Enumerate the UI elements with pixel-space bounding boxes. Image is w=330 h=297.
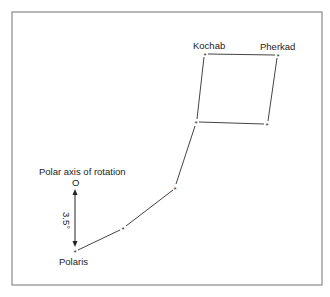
star-icon: * (265, 121, 268, 130)
polar-axis-marker: O (72, 177, 79, 188)
arrow-down-icon (73, 241, 78, 247)
star-pherkad-icon: * (276, 52, 279, 61)
angle-arrow (73, 189, 78, 247)
star-markers: * * * * * * * (73, 51, 279, 257)
star-icon: * (173, 185, 176, 194)
label-pherkad: Pherkad (260, 41, 295, 52)
arrow-up-icon (73, 189, 78, 195)
label-polaris: Polaris (59, 256, 88, 267)
star-icon: * (194, 119, 197, 128)
label-angle: 3.5° (61, 212, 72, 229)
label-kochab: Kochab (193, 40, 225, 51)
star-kochab-icon: * (203, 51, 206, 60)
label-polar-axis: Polar axis of rotation (39, 166, 126, 177)
star-icon: * (121, 225, 124, 234)
constellation-lines (78, 54, 277, 250)
